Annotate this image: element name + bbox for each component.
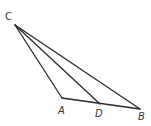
triangle-diagram: C A D B <box>0 0 151 126</box>
label-a: A <box>57 105 65 116</box>
label-d: D <box>95 108 103 119</box>
segment-cb <box>15 25 140 109</box>
label-c: C <box>5 11 12 22</box>
label-b: B <box>138 111 145 122</box>
